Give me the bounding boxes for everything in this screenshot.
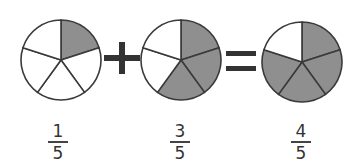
numerator: 4 xyxy=(286,122,316,140)
fraction-one-fifth: 1 5 xyxy=(43,122,73,162)
plus-sign xyxy=(104,42,140,74)
equals-sign xyxy=(226,51,256,71)
denominator: 5 xyxy=(165,144,195,162)
denominator: 5 xyxy=(43,144,73,162)
denominator: 5 xyxy=(286,144,316,162)
pie-four-fifths xyxy=(262,22,342,102)
numerator: 1 xyxy=(43,122,73,140)
pie-one-fifth xyxy=(21,20,101,100)
numerator: 3 xyxy=(165,122,195,140)
pie-three-fifths xyxy=(141,20,221,100)
fraction-three-fifths: 3 5 xyxy=(165,122,195,162)
fraction-four-fifths: 4 5 xyxy=(286,122,316,162)
